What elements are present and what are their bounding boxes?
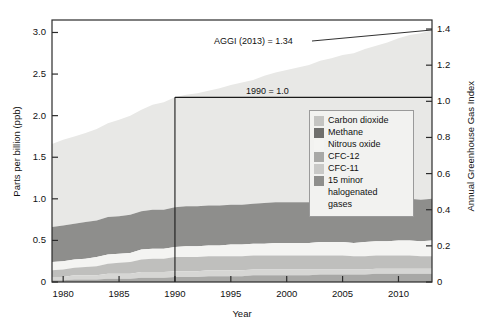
legend-item-2: Nitrous oxide [314,139,409,150]
x-ticklabel-0: 1980 [43,288,83,299]
y-ticklabel-right-2: 0.4 [437,204,463,215]
y-ticklabel-left-6: 3.0 [20,26,46,37]
x-ticklabel-6: 2010 [378,288,418,299]
y-ticklabel-right-3: 0.6 [437,168,463,179]
legend-swatch-icon [314,116,324,126]
x-ticklabel-3: 1995 [211,288,251,299]
y-ticklabel-left-2: 1.0 [20,193,46,204]
annotation-aggi-2013: AGGI (2013) = 1.34 [214,36,293,46]
y-ticklabel-right-4: 0.8 [437,131,463,142]
y-ticklabel-left-0: 0 [20,276,46,287]
x-ticklabel-5: 2005 [323,288,363,299]
legend-item-1: Methane [314,127,409,138]
legend-swatch-icon [314,140,324,150]
greenhouse-gas-index-chart: Parts per billion (ppb) Annual Greenhous… [0,0,492,330]
y-ticklabel-left-4: 2.0 [20,110,46,121]
legend-label: Nitrous oxide [328,139,381,150]
y-ticklabel-left-3: 1.5 [20,151,46,162]
chart-plot-area [0,0,492,330]
legend-swatch-icon [314,128,324,138]
legend-item-6: halogenated [314,187,409,198]
legend-swatch-spacer [314,200,324,210]
legend-item-5: 15 minor [314,175,409,186]
legend-label: 15 minor [328,175,363,186]
legend-swatch-icon [314,176,324,186]
x-axis-title: Year [52,308,432,319]
legend-swatch-icon [314,152,324,162]
legend-label: halogenated [328,187,378,198]
x-ticklabel-1: 1985 [99,288,139,299]
y-ticklabel-right-0: 0 [437,276,463,287]
legend-label: Carbon dioxide [328,115,389,126]
legend-item-4: CFC-11 [314,163,409,174]
legend-swatch-icon [314,164,324,174]
legend-item-0: Carbon dioxide [314,115,409,126]
annotation-baseline-1990: 1990 = 1.0 [246,86,289,96]
y-ticklabel-left-5: 2.5 [20,68,46,79]
x-ticklabel-4: 2000 [267,288,307,299]
y-ticklabel-right-7: 1.4 [437,23,463,34]
chart-legend: Carbon dioxideMethaneNitrous oxideCFC-12… [309,110,414,217]
y-axis-right-title: Annual Greenhouse Gas Index [465,92,476,212]
y-ticklabel-right-6: 1.2 [437,59,463,70]
legend-item-3: CFC-12 [314,151,409,162]
x-ticklabel-2: 1990 [155,288,195,299]
y-ticklabel-left-1: 0.5 [20,234,46,245]
legend-label: CFC-12 [328,151,360,162]
legend-swatch-spacer [314,188,324,198]
legend-label: CFC-11 [328,163,359,174]
y-ticklabel-right-5: 1.0 [437,95,463,106]
legend-label: Methane [328,127,363,138]
legend-item-7: gases [314,199,409,210]
y-ticklabel-right-1: 0.2 [437,240,463,251]
legend-label: gases [328,199,352,210]
